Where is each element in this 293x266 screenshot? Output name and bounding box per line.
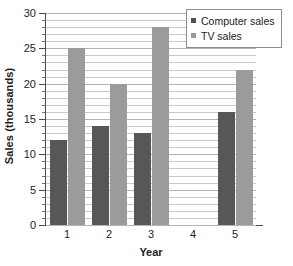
gridline xyxy=(46,225,256,226)
bar xyxy=(218,112,235,225)
legend-entry-computer-sales: Computer sales xyxy=(191,13,275,28)
y-axis-tick-label: 30 xyxy=(24,7,36,19)
legend-swatch-icon-tv-sales xyxy=(191,33,196,38)
legend-label-computer-sales: Computer sales xyxy=(201,15,275,27)
x-axis-tick-label: 4 xyxy=(190,228,196,240)
bar xyxy=(92,126,109,225)
x-axis-tick-label: 2 xyxy=(106,228,112,240)
x-axis-tick-labels: 12345 xyxy=(46,228,256,244)
legend-entry-tv-sales: TV sales xyxy=(191,28,275,43)
y-axis-tick-label: 0 xyxy=(30,219,36,231)
y-axis-tick-label: 20 xyxy=(24,78,36,90)
bar xyxy=(134,133,151,225)
bar xyxy=(110,84,127,225)
y-axis-tick-label: 10 xyxy=(24,148,36,160)
legend-swatch-icon-computer-sales xyxy=(191,18,196,23)
y-axis-tick-label: 15 xyxy=(24,113,36,125)
bar xyxy=(50,140,67,225)
x-axis-tick-label: 3 xyxy=(148,228,154,240)
bar-chart-figure: Sales (thousands) 051015202530 12345 Yea… xyxy=(0,0,293,266)
y-axis-tick-labels: 051015202530 xyxy=(18,13,38,225)
x-axis-title: Year xyxy=(46,246,256,258)
bar xyxy=(68,48,85,225)
chart-legend: Computer sales TV sales xyxy=(186,9,282,48)
y-axis-tick-label: 25 xyxy=(24,42,36,54)
y-axis-tick-label: 5 xyxy=(30,184,36,196)
legend-label-tv-sales: TV sales xyxy=(201,30,242,42)
bar xyxy=(152,27,169,225)
x-axis-tick-label: 1 xyxy=(64,228,70,240)
y-axis-title: Sales (thousands) xyxy=(0,0,18,232)
bar xyxy=(236,70,253,225)
y-axis-title-text: Sales (thousands) xyxy=(3,68,15,164)
x-axis-tick-label: 5 xyxy=(232,228,238,240)
